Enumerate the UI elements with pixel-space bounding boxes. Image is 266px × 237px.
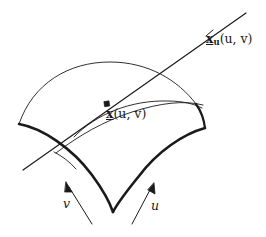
parameter-u-label: u — [151, 200, 159, 213]
tangent-vector-variable: x — [206, 31, 213, 46]
arrow-v-head — [65, 182, 72, 192]
surface-point-arguments: (u, v) — [113, 106, 146, 121]
surface-point-label: x(u, v) — [106, 108, 146, 121]
arrow-u-shaft — [132, 188, 151, 224]
parameter-v-label: v — [63, 198, 70, 211]
figure-container: xu(u, v) x(u, v) v u — [0, 0, 266, 237]
tangent-vector-arguments: (u, v) — [220, 31, 253, 46]
arrow-v-shaft — [69, 187, 92, 224]
surface-patch — [19, 62, 205, 212]
tangent-vector-label: xu(u, v) — [206, 33, 252, 46]
